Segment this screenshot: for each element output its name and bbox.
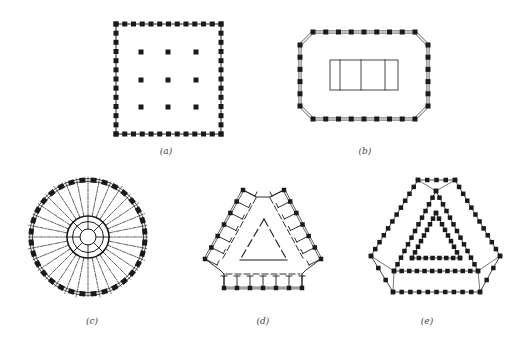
column-icon (444, 209, 449, 214)
column-icon (416, 222, 421, 227)
column-icon (210, 22, 215, 27)
column-icon (423, 256, 428, 261)
column-icon (201, 132, 206, 137)
column-icon (122, 132, 127, 137)
column-icon (472, 262, 477, 267)
column-icon (461, 192, 466, 197)
column-icon (413, 250, 418, 255)
column-icon (452, 245, 457, 250)
plan-e-nested-triangles (369, 178, 503, 295)
column-icon (79, 177, 85, 183)
column-icon (114, 22, 119, 27)
column-icon (481, 226, 486, 231)
column-icon (413, 30, 418, 35)
column-icon (48, 277, 56, 285)
column-icon (128, 197, 136, 205)
column-icon (298, 55, 303, 60)
column-icon (184, 132, 189, 137)
column-icon (48, 189, 56, 197)
column-icon (443, 228, 448, 233)
column-icon (426, 79, 431, 84)
column-icon (438, 269, 443, 274)
column-icon (376, 266, 381, 271)
column-icon (441, 202, 446, 207)
column-icon (440, 222, 445, 227)
column-icon (451, 256, 456, 261)
column-icon (426, 55, 431, 60)
plan-b-chamfered-rectangle (298, 30, 431, 122)
column-icon (477, 219, 482, 224)
column-icon (430, 195, 435, 200)
column-icon (458, 235, 463, 240)
caption-e: (e) (421, 316, 433, 326)
column-icon (298, 43, 303, 48)
column-icon (219, 49, 224, 54)
column-icon (219, 40, 224, 45)
column-icon (219, 95, 224, 100)
column-icon (323, 30, 328, 35)
column-icon (420, 215, 425, 220)
column-icon (90, 177, 96, 183)
column-icon (373, 247, 378, 252)
column-icon (362, 30, 367, 35)
column-icon (382, 233, 387, 238)
plan-d-triangular-wings (203, 188, 324, 291)
column-icon (443, 290, 448, 295)
column-icon (114, 86, 119, 91)
column-icon (462, 242, 467, 247)
column-icon (437, 195, 442, 200)
column-icon (114, 58, 119, 63)
column-icon (494, 247, 499, 252)
column-icon (394, 212, 399, 217)
column-icon (437, 216, 442, 221)
column-icon (114, 104, 119, 109)
column-icon (166, 132, 171, 137)
column-icon (484, 278, 489, 283)
column-icon (399, 290, 404, 295)
column-icon (426, 43, 431, 48)
column-icon (114, 49, 119, 54)
column-icon (426, 290, 431, 295)
column-icon (416, 245, 421, 250)
column-icon (422, 233, 427, 238)
column-icon (349, 117, 354, 122)
column-icon (175, 132, 180, 137)
column-icon (395, 262, 400, 267)
column-icon (451, 222, 456, 227)
column-icon (149, 22, 154, 27)
column-icon (452, 290, 457, 295)
column-icon (219, 31, 224, 36)
column-icon (114, 40, 119, 45)
column-icon (336, 30, 341, 35)
column-icon (417, 256, 422, 261)
column-icon (413, 229, 418, 234)
column-icon (430, 256, 435, 261)
column-icon (423, 209, 428, 214)
column-icon (219, 104, 224, 109)
column-icon (219, 113, 224, 118)
column-icon (131, 132, 136, 137)
column-icon (192, 132, 197, 137)
column-icon (349, 30, 354, 35)
column-icon (311, 30, 316, 35)
column-icon (219, 132, 224, 137)
column-icon (323, 117, 328, 122)
column-icon (114, 95, 119, 100)
column-icon (336, 117, 341, 122)
column-icon (28, 239, 34, 245)
column-icon (469, 290, 474, 295)
plan-c-circular (27, 176, 149, 298)
column-icon (386, 226, 391, 231)
column-icon (139, 50, 144, 55)
caption-b: (b) (359, 146, 372, 156)
column-icon (409, 235, 414, 240)
column-icon (219, 122, 224, 127)
column-icon (114, 132, 119, 137)
column-icon (149, 132, 154, 137)
column-icon (403, 198, 408, 203)
column-icon (445, 269, 450, 274)
column-icon (434, 290, 439, 295)
column-icon (114, 77, 119, 82)
column-icon (157, 22, 162, 27)
column-icon (192, 22, 197, 27)
